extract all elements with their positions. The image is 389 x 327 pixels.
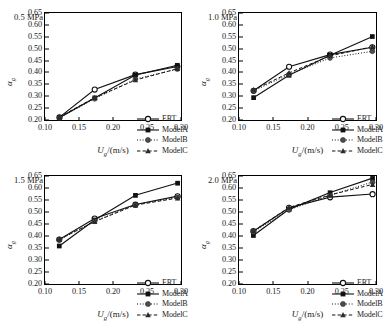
- legend-label: ModelC: [357, 146, 383, 157]
- y-axis-tick-label: 0.55: [28, 196, 42, 204]
- legend-label: ModelC: [162, 146, 188, 157]
- data-point-ert: [92, 87, 97, 92]
- y-axis-tick-label: 0.30: [222, 92, 236, 100]
- x-axis-tick-label: 0.20: [106, 288, 120, 296]
- legend-symbol-filled-circle: [136, 299, 160, 309]
- marker-layer: [45, 176, 181, 284]
- x-axis-tick-label: 0.15: [266, 124, 280, 132]
- legend-symbol-filled-triangle: [136, 146, 160, 156]
- data-point-modela: [175, 181, 180, 186]
- panel-title: 2.0 MPa: [208, 175, 237, 185]
- x-axis-tick-label: 0.10: [38, 288, 52, 296]
- legend-item-modela: ModelA: [331, 289, 383, 300]
- legend-label: ModelB: [357, 299, 383, 310]
- legend: ERTModelAModelBModelC: [136, 278, 188, 320]
- x-axis-tick-label: 0.15: [72, 288, 86, 296]
- legend-item-modelc: ModelC: [136, 310, 188, 321]
- legend-label: ModelA: [162, 289, 188, 300]
- x-axis-tick-label: 0.10: [232, 124, 246, 132]
- legend-label: ModelA: [162, 125, 188, 136]
- x-axis-tick-label: 0.10: [38, 124, 52, 132]
- x-axis-tick-label: 0.20: [301, 124, 315, 132]
- y-axis-tick-label: 0.55: [28, 33, 42, 41]
- y-axis-tick-label: 0.35: [222, 244, 236, 252]
- y-axis-tick-label: 0.50: [222, 45, 236, 53]
- data-point-modelb: [370, 49, 375, 54]
- x-axis-tick-label: 0.15: [72, 124, 86, 132]
- plot-area: 0.200.250.300.350.400.450.500.550.600.65…: [44, 175, 182, 285]
- y-axis-label: αg: [4, 77, 16, 85]
- legend-item-modela: ModelA: [136, 125, 188, 136]
- legend-symbol-open-circle: [331, 278, 355, 288]
- legend-label: ModelB: [162, 299, 188, 310]
- legend-item-modelc: ModelC: [136, 146, 188, 157]
- legend-symbol-filled-circle: [331, 135, 355, 145]
- y-axis-tick-label: 0.25: [222, 268, 236, 276]
- x-axis-tick-label: 0.10: [232, 288, 246, 296]
- y-axis-tick-label: 0.60: [28, 184, 42, 192]
- panel-title: 0.5 MPa: [14, 12, 43, 22]
- data-point-modela: [370, 34, 375, 39]
- legend-symbol-filled-triangle: [331, 146, 355, 156]
- legend-label: ERT: [357, 114, 371, 125]
- legend-label: ERT: [162, 114, 176, 125]
- legend-symbol-open-circle: [136, 114, 160, 124]
- plot-area: 0.200.250.300.350.400.450.500.550.600.65…: [44, 12, 182, 121]
- y-axis-tick-label: 0.40: [28, 68, 42, 76]
- y-axis-tick-label: 0.30: [222, 256, 236, 264]
- y-axis-tick-label: 0.40: [222, 232, 236, 240]
- legend: ERTModelAModelBModelC: [331, 278, 383, 320]
- panel-title: 1.0 MPa: [208, 12, 237, 22]
- legend-label: ModelA: [357, 289, 383, 300]
- y-axis-tick-label: 0.35: [28, 80, 42, 88]
- y-axis-label: αg: [198, 241, 210, 249]
- legend-symbol-filled-square: [136, 289, 160, 299]
- y-axis-tick-label: 0.35: [222, 80, 236, 88]
- legend-symbol-open-circle: [136, 278, 160, 288]
- data-point-modela: [57, 244, 62, 249]
- legend-item-ert: ERT: [331, 114, 383, 125]
- legend-symbol-filled-square: [331, 289, 355, 299]
- marker-layer: [239, 13, 376, 120]
- legend-symbol-filled-circle: [136, 135, 160, 145]
- y-axis-tick-label: 0.30: [28, 92, 42, 100]
- y-axis-tick-label: 0.40: [28, 232, 42, 240]
- y-axis-tick-label: 0.50: [28, 45, 42, 53]
- y-axis-tick-label: 0.45: [28, 220, 42, 228]
- y-axis-tick-label: 0.30: [28, 256, 42, 264]
- legend-label: ERT: [162, 278, 176, 289]
- panel-title: 1.5 MPa: [14, 175, 43, 185]
- y-axis-tick-label: 0.40: [222, 68, 236, 76]
- data-point-ert: [287, 64, 292, 69]
- y-axis-tick-label: 0.60: [222, 21, 236, 29]
- y-axis-tick-label: 0.45: [28, 56, 42, 64]
- y-axis-tick-label: 0.35: [28, 244, 42, 252]
- legend-item-modelb: ModelB: [136, 299, 188, 310]
- legend-item-ert: ERT: [136, 278, 188, 289]
- legend: ERTModelAModelBModelC: [136, 114, 188, 156]
- x-axis-tick-label: 0.15: [266, 288, 280, 296]
- legend-symbol-open-circle: [331, 114, 355, 124]
- legend-item-modela: ModelA: [331, 125, 383, 136]
- y-axis-tick-label: 0.45: [222, 56, 236, 64]
- legend: ERTModelAModelBModelC: [331, 114, 383, 156]
- legend-label: ModelB: [357, 135, 383, 146]
- data-point-ert: [370, 192, 375, 197]
- chart-panel-1: 0.200.250.300.350.400.450.500.550.600.65…: [0, 0, 194, 163]
- legend-label: ERT: [357, 278, 371, 289]
- chart-panel-2: 0.200.250.300.350.400.450.500.550.600.65…: [194, 0, 389, 163]
- marker-layer: [239, 176, 376, 284]
- legend-symbol-filled-square: [136, 125, 160, 135]
- plot-area: 0.200.250.300.350.400.450.500.550.600.65…: [238, 12, 377, 121]
- legend-item-modelc: ModelC: [331, 146, 383, 157]
- y-axis-tick-label: 0.25: [28, 268, 42, 276]
- x-axis-tick-label: 0.20: [106, 124, 120, 132]
- multi-panel-figure: 0.200.250.300.350.400.450.500.550.600.65…: [0, 0, 389, 327]
- marker-layer: [45, 13, 181, 120]
- y-axis-tick-label: 0.60: [222, 184, 236, 192]
- legend-label: ModelB: [162, 135, 188, 146]
- y-axis-tick-label: 0.50: [222, 208, 236, 216]
- y-axis-label: αg: [4, 241, 16, 249]
- legend-item-ert: ERT: [331, 278, 383, 289]
- y-axis-tick-label: 0.55: [222, 196, 236, 204]
